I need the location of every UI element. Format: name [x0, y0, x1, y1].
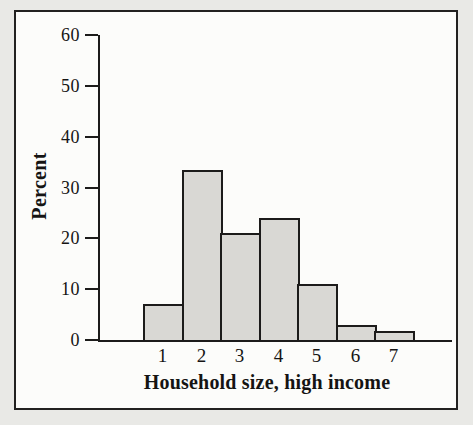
x-axis-line — [98, 340, 452, 342]
bar-household-size-4 — [259, 218, 300, 342]
chart-frame: Percent 0102030405060 1234567 Household … — [14, 10, 458, 410]
x-category-label-2: 2 — [182, 346, 221, 366]
y-tick-mark — [85, 339, 98, 341]
x-axis-title: Household size, high income — [90, 371, 444, 394]
y-tick-mark — [85, 187, 98, 189]
x-category-label-7: 7 — [374, 346, 413, 366]
y-axis-line — [98, 35, 100, 342]
x-category-label-6: 6 — [336, 346, 375, 366]
y-tick-label: 50 — [40, 75, 80, 97]
x-category-label-1: 1 — [143, 346, 182, 366]
x-category-label-4: 4 — [259, 346, 298, 366]
bar-household-size-2 — [182, 170, 223, 342]
y-tick-mark — [85, 288, 98, 290]
y-tick-label: 60 — [40, 24, 80, 46]
y-tick-mark — [85, 237, 98, 239]
y-tick-label: 0 — [40, 329, 80, 351]
y-tick-mark — [85, 136, 98, 138]
y-tick-mark — [85, 34, 98, 36]
y-tick-mark — [85, 85, 98, 87]
bar-household-size-1 — [143, 304, 184, 342]
x-category-label-3: 3 — [220, 346, 259, 366]
x-category-label-5: 5 — [297, 346, 336, 366]
y-tick-label: 40 — [40, 126, 80, 148]
y-tick-label: 20 — [40, 227, 80, 249]
y-tick-label: 10 — [40, 278, 80, 300]
page-background: Percent 0102030405060 1234567 Household … — [0, 0, 473, 425]
y-tick-label: 30 — [40, 177, 80, 199]
bar-household-size-3 — [220, 233, 261, 342]
bar-household-size-5 — [297, 284, 338, 342]
